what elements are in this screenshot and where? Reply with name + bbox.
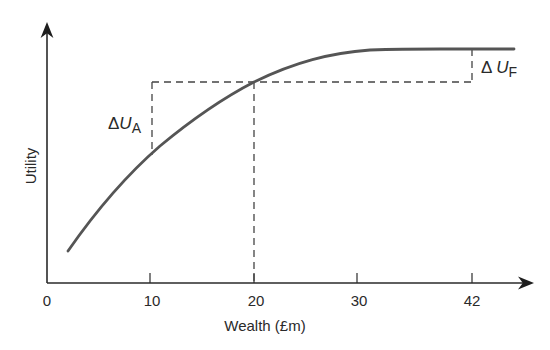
delta-u-f-annotation: Δ UF [481, 58, 517, 80]
subscript-f: F [508, 64, 517, 80]
y-axis-label: Utility [22, 148, 39, 185]
x-tick-label-20: 20 [248, 292, 265, 309]
x-axis-label: Wealth (£m) [224, 317, 305, 334]
x-tick-label-0: 0 [43, 292, 51, 309]
delta-symbol: Δ [108, 114, 119, 133]
x-tick-label-30: 30 [351, 292, 368, 309]
utility-variable: U [496, 58, 508, 77]
utility-curve [68, 49, 514, 251]
delta-symbol: Δ [481, 58, 496, 77]
x-tick-label-42: 42 [464, 292, 481, 309]
subscript-a: A [132, 120, 141, 136]
utility-variable: U [119, 114, 131, 133]
x-tick-label-10: 10 [144, 292, 161, 309]
delta-u-a-annotation: ΔUA [108, 114, 141, 136]
